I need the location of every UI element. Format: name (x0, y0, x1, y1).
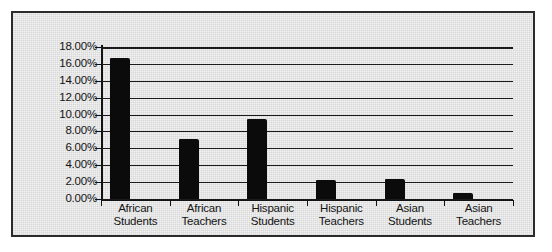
bar (247, 119, 267, 199)
y-tick-label: 6.00% (29, 142, 97, 154)
y-tick-label: 18.00% (29, 41, 97, 53)
x-tick-label-line: Asian (444, 202, 513, 215)
bar (385, 179, 405, 199)
gridline (101, 81, 513, 82)
x-tick-label-line: Students (101, 215, 170, 228)
gridline (101, 115, 513, 116)
x-tick-mark (513, 200, 514, 206)
x-tick-label-line: African (101, 202, 170, 215)
y-tick-mark (95, 148, 102, 149)
y-tick-label: 14.00% (29, 75, 97, 87)
x-tick-label-line: Teachers (444, 215, 513, 228)
y-tick-label: 16.00% (29, 58, 97, 70)
y-tick-label: 10.00% (29, 109, 97, 121)
gridline (101, 98, 513, 99)
gridline (101, 165, 513, 166)
bar (110, 58, 130, 199)
y-tick-mark (95, 165, 102, 166)
gridline (101, 47, 513, 49)
y-tick-label: 4.00% (29, 159, 97, 171)
figure-page: 18.00%16.00%14.00%12.00%10.00%8.00%6.00%… (0, 0, 552, 252)
x-tick-label: HispanicTeachers (307, 202, 376, 227)
y-tick-mark (95, 131, 102, 132)
bar (179, 139, 199, 199)
x-tick-label-line: Students (238, 215, 307, 228)
y-tick-label: 2.00% (29, 176, 97, 188)
y-tick-mark (95, 47, 102, 48)
x-tick-label: AfricanTeachers (170, 202, 239, 227)
x-tick-label-line: Hispanic (238, 202, 307, 215)
y-tick-label: 0.00% (29, 193, 97, 205)
y-tick-mark (95, 81, 102, 82)
gridline (101, 131, 513, 132)
bar (453, 193, 473, 199)
y-tick-mark (95, 115, 102, 116)
y-axis-line (101, 45, 103, 201)
bar (316, 180, 336, 199)
bar-chart: 18.00%16.00%14.00%12.00%10.00%8.00%6.00%… (29, 29, 523, 225)
x-tick-label-line: Students (376, 215, 445, 228)
figure-border: 18.00%16.00%14.00%12.00%10.00%8.00%6.00%… (11, 11, 535, 237)
gridline (101, 64, 513, 65)
x-tick-label-line: African (170, 202, 239, 215)
x-tick-label: AsianTeachers (444, 202, 513, 227)
x-tick-label: HispanicStudents (238, 202, 307, 227)
y-tick-mark (95, 64, 102, 65)
plot-area (101, 47, 513, 199)
x-tick-label-line: Teachers (170, 215, 239, 228)
x-axis: AfricanStudentsAfricanTeachersHispanicSt… (101, 202, 513, 232)
y-tick-mark (95, 182, 102, 183)
y-tick-mark (95, 98, 102, 99)
y-tick-label: 12.00% (29, 92, 97, 104)
x-tick-label-line: Hispanic (307, 202, 376, 215)
gridline (101, 148, 513, 149)
x-tick-label-line: Asian (376, 202, 445, 215)
x-tick-label: AsianStudents (376, 202, 445, 227)
gridline (101, 182, 513, 183)
x-tick-label-line: Teachers (307, 215, 376, 228)
y-axis: 18.00%16.00%14.00%12.00%10.00%8.00%6.00%… (29, 47, 97, 199)
x-tick-label: AfricanStudents (101, 202, 170, 227)
y-tick-label: 8.00% (29, 125, 97, 137)
